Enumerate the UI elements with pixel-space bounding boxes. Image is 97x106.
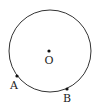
label-o: O (44, 54, 53, 67)
center-point-o (47, 49, 50, 52)
circle-diagram: O A B (0, 0, 97, 106)
label-a: A (9, 79, 19, 92)
point-b (65, 87, 68, 90)
label-b: B (63, 92, 71, 105)
point-a (15, 74, 18, 77)
